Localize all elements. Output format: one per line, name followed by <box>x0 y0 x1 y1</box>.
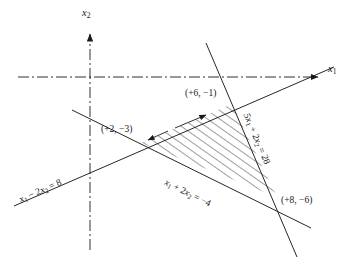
vertex-label-lower-right: (+8, −6) <box>281 196 312 206</box>
x-axis-label: x1 <box>328 64 336 76</box>
y-axis-label: x2 <box>82 8 90 20</box>
linear-programming-figure: x1 x2 (+6, −1) (+2, −3) (+8, −6) x1 − 2x… <box>0 0 358 270</box>
vertex-label-left: (+2, −3) <box>101 125 132 135</box>
vertex-label-upper: (+6, −1) <box>185 89 216 99</box>
figure-canvas <box>0 0 358 270</box>
